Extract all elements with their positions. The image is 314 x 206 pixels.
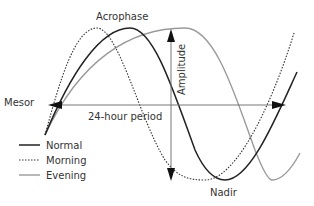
legend-evening-label: Evening (46, 170, 86, 181)
legend: Normal Morning Evening (19, 140, 86, 181)
circadian-diagram: Acrophase Mesor 24-hour period Nadir Amp… (0, 0, 314, 206)
acrophase-label: Acrophase (96, 11, 148, 22)
period-label: 24-hour period (88, 111, 162, 122)
amplitude-arrowhead-top (167, 29, 175, 42)
period-arrowhead-left (48, 101, 62, 109)
legend-morning-label: Morning (46, 155, 86, 166)
nadir-label: Nadir (210, 187, 238, 198)
mesor-label: Mesor (4, 97, 35, 108)
legend-normal-label: Normal (46, 140, 82, 151)
amplitude-arrowhead-bottom (167, 168, 175, 181)
amplitude-label: Amplitude (176, 44, 187, 95)
